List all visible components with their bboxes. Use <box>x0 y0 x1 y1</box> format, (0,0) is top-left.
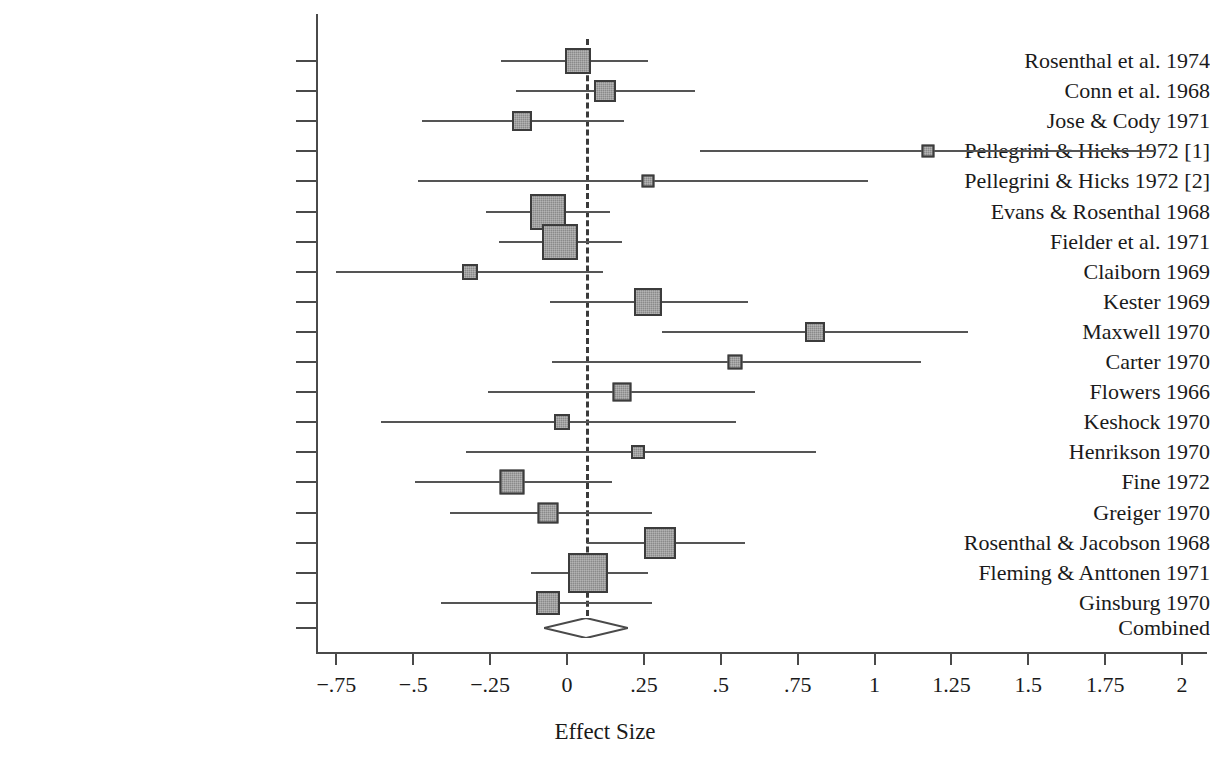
study-label-13: Henrikson 1970 <box>918 441 1210 463</box>
study-marker-9 <box>805 322 825 342</box>
study-marker-11 <box>613 383 632 402</box>
study-marker-17 <box>568 553 608 593</box>
x-tick-8 <box>950 654 952 665</box>
study-marker-18 <box>536 591 560 615</box>
study-label-1: Conn et al. 1968 <box>918 80 1210 102</box>
study-label-0: Rosenthal et al. 1974 <box>918 50 1210 72</box>
x-axis-line <box>316 652 1207 654</box>
y-tick-0 <box>296 60 316 62</box>
study-label-15: Greiger 1970 <box>918 502 1210 524</box>
x-tick-10 <box>1104 654 1106 665</box>
study-label-10: Carter 1970 <box>918 351 1210 373</box>
study-marker-14 <box>499 470 524 495</box>
study-label-5: Evans & Rosenthal 1968 <box>918 201 1210 223</box>
study-marker-13 <box>631 445 645 459</box>
study-label-7: Claiborn 1969 <box>918 261 1210 283</box>
study-label-2: Jose & Cody 1971 <box>918 110 1210 132</box>
x-tick-3 <box>566 654 568 665</box>
study-label-4: Pellegrini & Hicks 1972 [2] <box>918 170 1210 192</box>
x-tick-label-11: 2 <box>1177 674 1188 696</box>
y-tick-3 <box>296 150 316 152</box>
study-label-16: Rosenthal & Jacobson 1968 <box>918 532 1210 554</box>
study-marker-3 <box>922 145 935 158</box>
y-tick-16 <box>296 542 316 544</box>
x-tick-label-0: −.75 <box>316 674 356 696</box>
study-marker-10 <box>727 355 742 370</box>
x-tick-label-8: 1.25 <box>932 674 971 696</box>
reference-line <box>586 39 589 634</box>
study-marker-12 <box>554 414 570 430</box>
x-tick-label-6: .75 <box>784 674 812 696</box>
x-axis-title: Effect Size <box>0 719 1210 745</box>
x-tick-label-7: 1 <box>869 674 880 696</box>
x-tick-2 <box>489 654 491 665</box>
y-tick-10 <box>296 361 316 363</box>
study-marker-6 <box>542 224 578 260</box>
x-tick-1 <box>412 654 414 665</box>
y-tick-17 <box>296 572 316 574</box>
y-tick-7 <box>296 271 316 273</box>
x-tick-7 <box>874 654 876 665</box>
y-tick-9 <box>296 331 316 333</box>
y-tick-2 <box>296 120 316 122</box>
x-tick-0 <box>335 654 337 665</box>
study-marker-16 <box>644 527 676 559</box>
x-tick-label-4: .25 <box>630 674 658 696</box>
x-tick-label-9: 1.5 <box>1015 674 1043 696</box>
study-marker-8 <box>634 288 662 316</box>
forest-plot: −.75−.5−.250.25.5.7511.251.51.752Effect … <box>0 0 1210 762</box>
study-label-18: Ginsburg 1970 <box>918 592 1210 614</box>
y-tick-8 <box>296 301 316 303</box>
y-axis-line <box>316 14 318 652</box>
study-marker-4 <box>642 175 655 188</box>
combined-diamond <box>544 618 628 638</box>
study-label-17: Fleming & Anttonen 1971 <box>918 562 1210 584</box>
x-tick-4 <box>643 654 645 665</box>
study-label-14: Fine 1972 <box>918 471 1210 493</box>
x-tick-5 <box>720 654 722 665</box>
study-marker-0 <box>565 48 591 74</box>
y-tick-15 <box>296 512 316 514</box>
study-label-12: Keshock 1970 <box>918 411 1210 433</box>
x-tick-9 <box>1027 654 1029 665</box>
study-label-11: Flowers 1966 <box>918 381 1210 403</box>
study-label-8: Kester 1969 <box>918 291 1210 313</box>
x-tick-label-5: .5 <box>713 674 730 696</box>
x-tick-label-3: 0 <box>562 674 573 696</box>
y-tick-14 <box>296 481 316 483</box>
study-marker-7 <box>462 264 478 280</box>
y-tick-11 <box>296 391 316 393</box>
y-tick-4 <box>296 180 316 182</box>
x-tick-6 <box>797 654 799 665</box>
x-tick-label-1: −.5 <box>399 674 428 696</box>
y-tick-12 <box>296 421 316 423</box>
study-marker-2 <box>512 111 532 131</box>
study-marker-1 <box>594 80 616 102</box>
combined-label: Combined <box>918 617 1210 639</box>
x-tick-label-2: −.25 <box>470 674 510 696</box>
y-tick-5 <box>296 211 316 213</box>
x-tick-11 <box>1181 654 1183 665</box>
y-tick-13 <box>296 451 316 453</box>
y-tick-combined <box>296 627 316 629</box>
y-tick-18 <box>296 602 316 604</box>
x-tick-label-10: 1.75 <box>1086 674 1125 696</box>
y-tick-1 <box>296 90 316 92</box>
study-marker-15 <box>537 502 558 523</box>
study-label-6: Fielder et al. 1971 <box>918 231 1210 253</box>
y-tick-6 <box>296 241 316 243</box>
